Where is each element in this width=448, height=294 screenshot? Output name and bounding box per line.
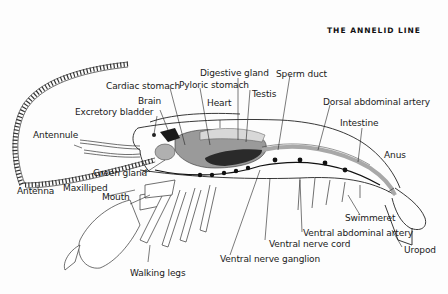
label-antennule: Antennule bbox=[33, 130, 78, 140]
label-mouth: Mouth bbox=[102, 192, 130, 202]
label-pyloric-stomach: Pyloric stomach bbox=[179, 80, 249, 90]
label-green-gland: Green gland bbox=[93, 168, 147, 178]
label-brain: Brain bbox=[138, 96, 161, 106]
crayfish-anatomy-diagram: THE ANNELID LINE Cardiac stomach Digesti… bbox=[0, 0, 448, 294]
label-excretory-bladder: Excretory bladder bbox=[75, 107, 153, 117]
swimmerets-drawing bbox=[298, 178, 360, 210]
label-dorsal-abdominal-artery: Dorsal abdominal artery bbox=[323, 97, 430, 107]
antennule-drawing bbox=[80, 140, 140, 157]
label-uropod: Uropod bbox=[404, 245, 436, 255]
label-walking-legs: Walking legs bbox=[130, 268, 186, 278]
label-antenna: Antenna bbox=[17, 186, 54, 196]
page-header-title: THE ANNELID LINE bbox=[327, 26, 421, 35]
label-ventral-nerve-cord: Ventral nerve cord bbox=[269, 239, 350, 249]
label-sperm-duct: Sperm duct bbox=[276, 69, 327, 79]
label-anus: Anus bbox=[384, 150, 406, 160]
label-digestive-gland: Digestive gland bbox=[200, 68, 269, 78]
organs bbox=[152, 128, 395, 195]
label-ventral-abdominal-artery: Ventral abdominal artery bbox=[303, 228, 413, 238]
legs-and-claw bbox=[64, 180, 216, 270]
crayfish-illustration bbox=[0, 0, 448, 294]
label-swimmeret: Swimmeret bbox=[345, 213, 395, 223]
label-maxilliped: Maxilliped bbox=[63, 183, 108, 193]
label-cardiac-stomach: Cardiac stomach bbox=[106, 81, 180, 91]
label-ventral-nerve-ganglion: Ventral nerve ganglion bbox=[220, 254, 320, 264]
label-testis: Testis bbox=[252, 89, 276, 99]
label-intestine: Intestine bbox=[340, 118, 378, 128]
label-heart: Heart bbox=[207, 98, 232, 108]
